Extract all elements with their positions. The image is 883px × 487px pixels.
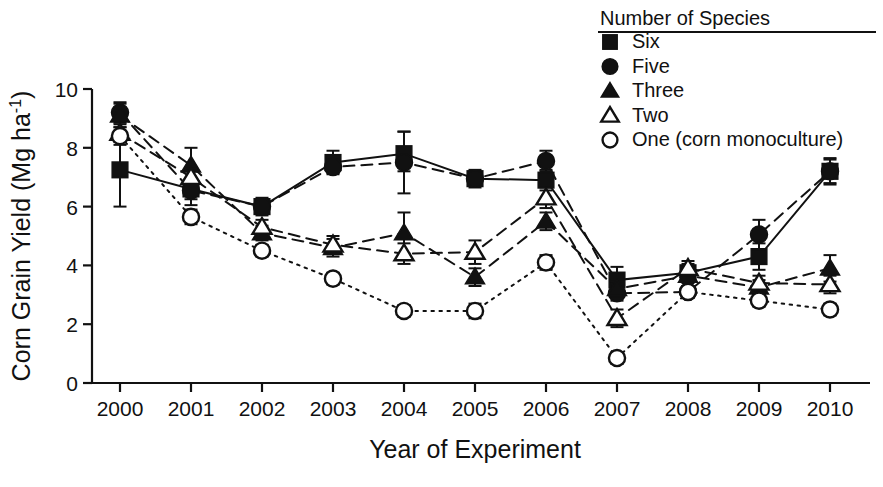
marker-open-triangle bbox=[465, 243, 484, 259]
x-tick-label: 2000 bbox=[97, 397, 144, 420]
marker-filled-square bbox=[112, 162, 128, 178]
marker-open-circle bbox=[751, 293, 767, 309]
y-tick-label: 10 bbox=[55, 78, 78, 101]
x-tick-label: 2004 bbox=[381, 397, 428, 420]
y-tick-label: 2 bbox=[66, 313, 78, 336]
marker-filled-triangle bbox=[394, 224, 413, 240]
legend-item-label: One (corn monoculture) bbox=[632, 128, 843, 150]
legend-item-six[interactable]: Six bbox=[603, 30, 660, 52]
x-tick-label: 2005 bbox=[452, 397, 499, 420]
legend-layer: Number of SpeciesSixFiveThreeTwoOne (cor… bbox=[598, 7, 876, 150]
x-tick-label: 2003 bbox=[310, 397, 357, 420]
series-line bbox=[120, 133, 830, 318]
marker-filled-circle bbox=[822, 163, 839, 180]
x-tick-label: 2007 bbox=[594, 397, 641, 420]
chart-figure: 0246810200020012002200320042005200620072… bbox=[0, 0, 883, 487]
marker-filled-circle bbox=[325, 158, 342, 175]
marker-open-triangle bbox=[820, 275, 839, 291]
x-tick-label: 2002 bbox=[239, 397, 286, 420]
x-tick-label: 2009 bbox=[736, 397, 783, 420]
legend-title: Number of Species bbox=[600, 7, 770, 29]
x-tick-label: 2001 bbox=[168, 397, 215, 420]
marker-open-triangle bbox=[749, 274, 768, 290]
x-tick-label: 2006 bbox=[523, 397, 570, 420]
legend-item-label: Six bbox=[632, 30, 660, 52]
y-tick-label: 8 bbox=[66, 137, 78, 160]
series-two bbox=[110, 124, 839, 327]
marker-filled-triangle bbox=[601, 83, 619, 98]
marker-filled-circle bbox=[396, 154, 413, 171]
marker-filled-circle bbox=[467, 170, 484, 187]
marker-open-circle bbox=[603, 133, 618, 148]
marker-open-triangle bbox=[601, 107, 619, 122]
y-axis-title: Corn Grain Yield (Mg ha-1) bbox=[7, 91, 35, 382]
x-tick-label: 2010 bbox=[807, 397, 854, 420]
marker-open-circle bbox=[467, 303, 483, 319]
marker-open-circle bbox=[183, 209, 199, 225]
legend-item-label: Five bbox=[632, 55, 670, 77]
x-axis-title: Year of Experiment bbox=[369, 435, 581, 463]
marker-filled-circle bbox=[538, 153, 555, 170]
marker-open-circle bbox=[680, 284, 696, 300]
legend-item-one[interactable]: One (corn monoculture) bbox=[603, 128, 844, 150]
marker-filled-square bbox=[751, 249, 767, 265]
marker-open-circle bbox=[822, 301, 838, 317]
legend-item-label: Two bbox=[632, 104, 669, 126]
marker-open-circle bbox=[396, 303, 412, 319]
marker-filled-triangle bbox=[820, 259, 839, 275]
legend-item-two[interactable]: Two bbox=[601, 104, 668, 126]
legend-item-label: Three bbox=[632, 79, 684, 101]
marker-open-triangle bbox=[607, 309, 626, 325]
marker-filled-square bbox=[538, 172, 554, 188]
y-tick-label: 4 bbox=[66, 254, 78, 277]
marker-open-circle bbox=[325, 271, 341, 287]
legend-item-three[interactable]: Three bbox=[601, 79, 684, 101]
legend-item-five[interactable]: Five bbox=[602, 55, 670, 77]
marker-open-circle bbox=[254, 243, 270, 259]
marker-open-circle bbox=[609, 350, 625, 366]
marker-filled-triangle bbox=[536, 212, 555, 228]
y-tick-label: 0 bbox=[66, 372, 78, 395]
marker-filled-circle bbox=[254, 198, 271, 215]
marker-filled-triangle bbox=[465, 268, 484, 284]
y-tick-label: 6 bbox=[66, 196, 78, 219]
marker-filled-circle bbox=[751, 226, 768, 243]
marker-filled-circle bbox=[602, 59, 618, 75]
marker-open-circle bbox=[538, 254, 554, 270]
x-tick-label: 2008 bbox=[665, 397, 712, 420]
marker-open-triangle bbox=[252, 218, 271, 234]
marker-filled-square bbox=[603, 35, 617, 49]
chart-canvas: 0246810200020012002200320042005200620072… bbox=[0, 0, 883, 487]
marker-open-circle bbox=[112, 128, 128, 144]
